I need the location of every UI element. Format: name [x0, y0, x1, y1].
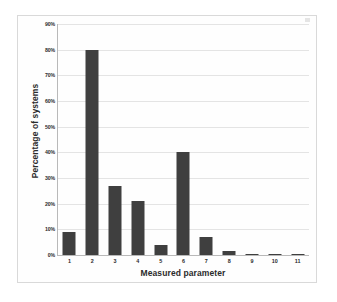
bar — [86, 50, 99, 255]
x-axis-tick-label: 4 — [136, 258, 139, 264]
bar — [200, 237, 213, 255]
bar — [291, 254, 304, 255]
y-axis-tick-label: 90% — [45, 21, 55, 27]
x-axis-tick-label: 11 — [295, 258, 301, 264]
bar-group: 9 — [241, 24, 264, 255]
x-axis-tick-label: 5 — [159, 258, 162, 264]
y-axis-tick-label: 0% — [48, 252, 55, 258]
x-axis-title: Measured parameter — [57, 268, 309, 278]
bar-group: 6 — [172, 24, 195, 255]
x-axis-tick-label: 2 — [91, 258, 94, 264]
y-axis-tick-label: 10% — [45, 226, 55, 232]
bar-group: 11 — [286, 24, 309, 255]
y-axis-tick-label: 80% — [45, 47, 55, 53]
x-axis-tick-label: 7 — [205, 258, 208, 264]
gridline — [58, 255, 309, 256]
x-axis-tick-label: 8 — [228, 258, 231, 264]
bar-group: 10 — [263, 24, 286, 255]
x-axis-tick-label: 6 — [182, 258, 185, 264]
bar — [245, 254, 258, 255]
x-axis-tick-label: 10 — [272, 258, 278, 264]
x-axis-tick-label: 9 — [250, 258, 253, 264]
bar-group: 8 — [218, 24, 241, 255]
scan-artifact — [305, 18, 310, 22]
bar — [154, 245, 167, 255]
bar-group: 1 — [58, 24, 81, 255]
bar — [109, 186, 122, 255]
x-axis-tick-label: 3 — [114, 258, 117, 264]
y-axis-tick-label: 60% — [45, 98, 55, 104]
bar-group: 4 — [126, 24, 149, 255]
bar — [223, 251, 236, 255]
y-axis-tick-label: 40% — [45, 149, 55, 155]
x-axis-tick-label: 1 — [68, 258, 71, 264]
bar — [131, 201, 144, 255]
bar — [63, 232, 76, 255]
plot-area: 90%80%70%60%50%40%30%20%10%0% 1234567891… — [57, 24, 309, 256]
bar-group: 7 — [195, 24, 218, 255]
y-axis-tick-label: 30% — [45, 175, 55, 181]
bar-series: 1234567891011 — [58, 24, 309, 255]
bar-group: 2 — [81, 24, 104, 255]
y-axis-title: Percentage of systems — [28, 38, 42, 224]
bar — [268, 254, 281, 255]
y-axis-tick-label: 50% — [45, 124, 55, 130]
y-axis-tick-label: 70% — [45, 72, 55, 78]
bar-group: 5 — [149, 24, 172, 255]
bar — [177, 152, 190, 255]
y-axis-tick-label: 20% — [45, 201, 55, 207]
bar-group: 3 — [104, 24, 127, 255]
chart-figure: Percentage of systems 90%80%70%60%50%40%… — [17, 15, 317, 283]
